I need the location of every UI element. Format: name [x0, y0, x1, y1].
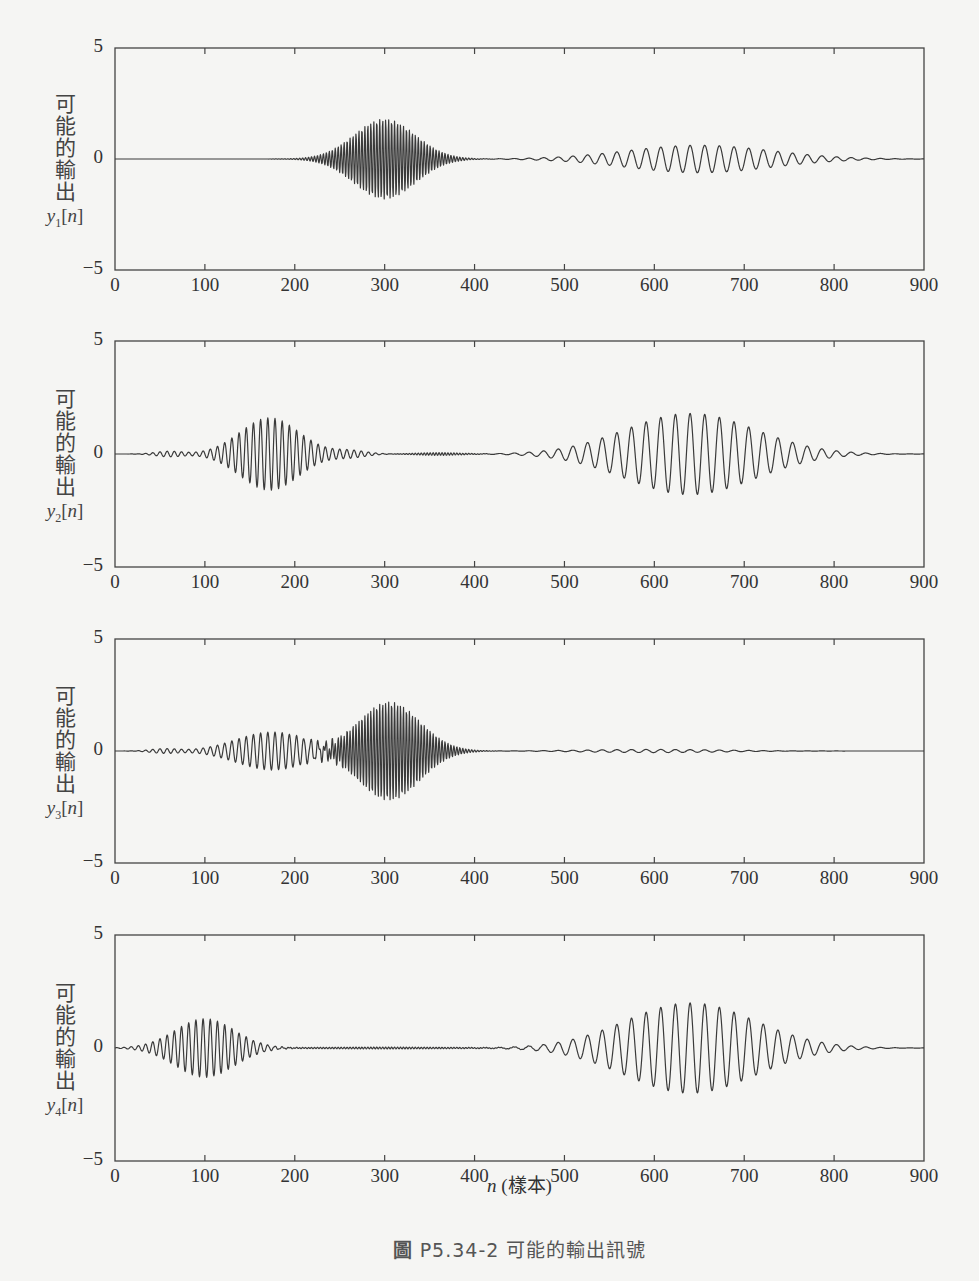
y-axis-label-char: 能 [40, 1004, 90, 1026]
y-tick-label: −5 [63, 1148, 103, 1170]
figure-caption: 圖 P5.34-2 可能的輸出訊號 [0, 1235, 979, 1262]
y-axis-label-char: 出 [40, 1070, 90, 1092]
plot-4 [0, 0, 979, 1281]
x-axis-variable: n [487, 1175, 497, 1196]
caption-id: P5.34-2 [420, 1239, 500, 1261]
y-axis-label-char: 輸 [40, 1048, 90, 1070]
y-axis-symbol: y4[n] [40, 1094, 90, 1123]
y-axis-label-char: 的 [40, 1026, 90, 1048]
caption-prefix: 圖 [393, 1239, 413, 1261]
caption-text: 可能的輸出訊號 [506, 1239, 646, 1261]
y-axis-label: 可能的輸出y4[n] [40, 982, 90, 1123]
y-tick-label: 5 [63, 922, 103, 944]
signal-line [115, 1003, 924, 1093]
y-axis-label-char: 可 [40, 982, 90, 1004]
x-axis-unit: (樣本) [501, 1175, 552, 1196]
x-axis-label: n (樣本) [0, 1170, 979, 1197]
